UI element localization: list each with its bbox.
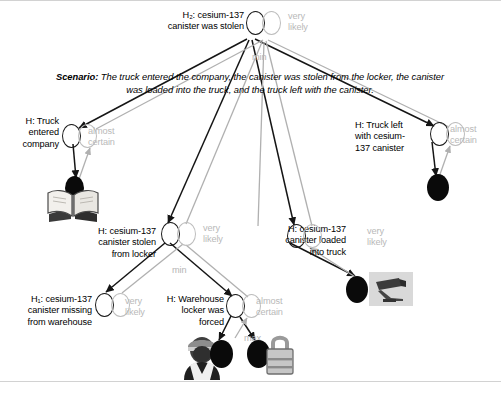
diagram-canvas: H₂: cesium-137 canister was stolen very … <box>0 0 501 399</box>
probability-label-locker-forced: almost certain <box>256 296 283 317</box>
security-camera-icon <box>369 272 413 306</box>
padlock-icon <box>264 330 296 376</box>
node-label-canister-stolen-locker: H: cesium-137 canister stolen from locke… <box>78 226 156 260</box>
probability-label-truck-entered: almost certain <box>88 126 115 147</box>
combiner-label-h2-root: min <box>252 52 267 62</box>
evidence-node-camera[interactable] <box>346 276 368 303</box>
probability-label-h1-canister-missing: very likely <box>125 296 145 317</box>
frame-bottom-border <box>0 381 501 382</box>
probability-label-truck-left: almost certain <box>450 124 477 145</box>
node-label-locker-forced: H: Warehouse locker was forced <box>156 294 224 328</box>
node-label-truck-entered: H: Truck entered company <box>5 116 59 150</box>
node-canister-stolen-locker[interactable] <box>161 222 199 246</box>
open-book-icon <box>45 178 101 224</box>
node-label-h1-canister-missing: H₁: cesium-137 canister missing from war… <box>8 294 92 328</box>
probability-label-canister-loaded-truck: very likely <box>367 226 387 247</box>
node-canister-loaded-truck[interactable] <box>287 224 325 248</box>
node-ellipse-secondary <box>303 224 322 248</box>
evidence-node-guard[interactable] <box>210 340 233 368</box>
probability-label-canister-stolen-locker: very likely <box>203 223 223 244</box>
combiner-label-canister-stolen-locker: min <box>172 265 187 275</box>
evidence-node-truck-left[interactable] <box>427 174 449 201</box>
node-label-truck-left: H: Truck left with cesium- 137 canister <box>355 120 431 154</box>
scenario-prefix: Scenario: <box>56 71 98 82</box>
probability-label-h2-root: very likely <box>288 11 308 32</box>
node-label-h2-root: H₂: cesium-137 canister was stolen <box>148 10 244 33</box>
scenario-body: The truck entered the company, the canis… <box>101 71 444 95</box>
scenario-text: Scenario: The truck entered the company,… <box>54 70 446 96</box>
node-ellipse-secondary <box>262 11 281 35</box>
node-ellipse-secondary <box>177 222 196 246</box>
node-h2-root[interactable] <box>246 11 284 35</box>
